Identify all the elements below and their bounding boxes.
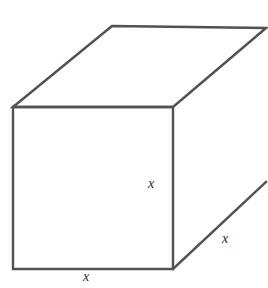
depth-dimension-label: x <box>222 232 228 246</box>
width-dimension-label: x <box>83 270 89 284</box>
height-dimension-label: x <box>148 177 154 191</box>
cube-figure: x x x <box>0 0 268 288</box>
